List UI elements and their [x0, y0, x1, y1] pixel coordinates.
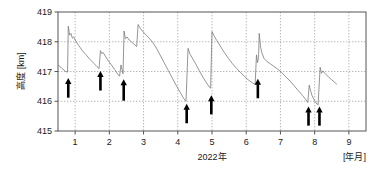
y-axis-title: 高度 [km] [15, 52, 26, 90]
x-tick-label: 6 [244, 137, 249, 147]
x-tick-label: 3 [141, 137, 146, 147]
x-axis-unit-label: [年月] [343, 151, 366, 162]
x-axis-ticks: 123456789 [73, 131, 352, 147]
y-axis-ticks: 415416417418419 [37, 7, 58, 136]
x-tick-label: 2 [107, 137, 112, 147]
x-tick-label: 5 [209, 137, 214, 147]
x-axis-title: 2022年 [197, 151, 226, 162]
x-tick-label: 8 [312, 137, 317, 147]
x-tick-label: 1 [73, 137, 78, 147]
x-tick-label: 9 [346, 137, 351, 147]
y-tick-label: 418 [37, 37, 52, 47]
chart-canvas: 415416417418419 123456789 高度 [km] 2022年 … [0, 0, 384, 169]
y-tick-label: 417 [37, 67, 52, 77]
y-tick-label: 419 [37, 7, 52, 17]
y-tick-label: 416 [37, 96, 52, 106]
x-tick-label: 7 [278, 137, 283, 147]
altitude-chart-figure: 415416417418419 123456789 高度 [km] 2022年 … [0, 0, 384, 169]
y-tick-label: 415 [37, 126, 52, 136]
x-tick-label: 4 [175, 137, 180, 147]
